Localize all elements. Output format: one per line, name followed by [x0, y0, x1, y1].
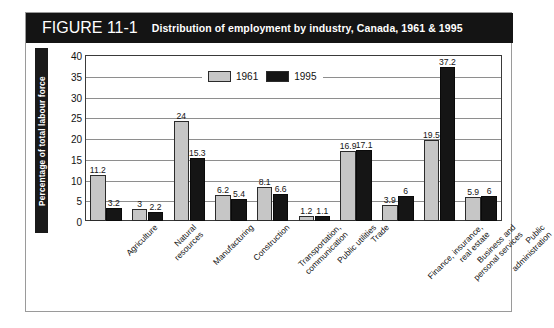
legend-entry-1995: 1995	[266, 71, 316, 82]
legend-label-1995: 1995	[294, 71, 316, 82]
gridline	[86, 98, 501, 99]
legend-swatch-1995	[266, 71, 289, 82]
x-axis-label-line: Agriculture	[125, 223, 160, 258]
y-axis-title-strip: Percentage of total labour force	[35, 48, 48, 233]
y-axis-tick-label: 30	[71, 92, 82, 103]
legend-swatch-1961	[208, 71, 231, 82]
gridline	[86, 181, 501, 182]
x-axis-label-line: Construction	[252, 223, 292, 263]
x-axis-label-agriculture: Agriculture	[125, 223, 160, 258]
x-axis-label-natural-resources: Naturalresources	[165, 223, 205, 263]
legend-label-1961: 1961	[236, 71, 258, 82]
gridline	[86, 201, 501, 202]
y-axis-title: Percentage of total labour force	[37, 76, 47, 206]
y-axis-tick-label: 0	[76, 217, 82, 228]
x-axis-label-construction: Construction	[252, 223, 292, 263]
figure-title: Distribution of employment by industry, …	[152, 22, 463, 34]
y-axis-tick-label: 35	[71, 71, 82, 82]
chart-legend: 19611995	[202, 69, 323, 84]
y-axis-tick-label: 40	[71, 51, 82, 62]
y-axis-tick-label: 15	[71, 154, 82, 165]
gridline	[86, 139, 501, 140]
x-axis-category-labels: AgricultureNaturalresourcesManufacturing…	[85, 223, 502, 303]
figure-title-bar: FIGURE 11-1 Distribution of employment b…	[26, 13, 513, 43]
figure-frame: FIGURE 11-1 Distribution of employment b…	[25, 12, 512, 312]
y-axis-tick-label: 20	[71, 134, 82, 145]
y-axis-tick-label: 10	[71, 175, 82, 186]
legend-entry-1961: 1961	[208, 71, 258, 82]
gridline	[86, 118, 501, 119]
y-axis-tick-label: 5	[76, 196, 82, 207]
x-axis-label-manufacturing: Manufacturing	[212, 223, 257, 268]
y-axis-tick-label: 25	[71, 113, 82, 124]
x-axis-label-line: Manufacturing	[212, 223, 257, 268]
chart-plot-wrapper: 0510152025303540 11.23.232.22415.36.25.4…	[50, 55, 502, 305]
figure-number: FIGURE 11-1	[42, 19, 138, 37]
gridline	[86, 160, 501, 161]
